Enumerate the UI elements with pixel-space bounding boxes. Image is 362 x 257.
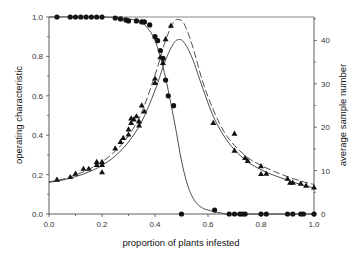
x-axis-title: proportion of plants infested — [122, 237, 239, 248]
right-y-tick-label: 20 — [321, 123, 330, 132]
right-y-axis-title: average sample number — [337, 64, 348, 166]
right-y-tick-label: 0 — [321, 210, 326, 219]
right-y-tick-label: 30 — [321, 80, 330, 89]
series-layer — [49, 14, 317, 216]
x-tick-label: 0.2 — [96, 220, 108, 229]
chart: 0.00.20.40.60.81.00.00.20.40.60.81.00102… — [0, 0, 362, 257]
x-tick-label: 0.8 — [255, 220, 267, 229]
left-y-tick-label: 0.8 — [32, 52, 44, 61]
left-y-tick-label: 0.2 — [32, 171, 44, 180]
left-y-tick-label: 0.6 — [32, 92, 44, 101]
plot-frame — [49, 17, 314, 214]
left-y-tick-label: 0.4 — [32, 131, 44, 140]
x-tick-label: 0.4 — [149, 220, 161, 229]
oc-model-curve — [49, 17, 314, 214]
right-y-tick-label: 40 — [321, 36, 330, 45]
left-y-axis-title: operating characteristic — [13, 66, 24, 164]
x-tick-label: 1.0 — [308, 220, 320, 229]
ticks: 0.00.20.40.60.81.00.00.20.40.60.81.00102… — [32, 13, 331, 229]
x-tick-label: 0.0 — [43, 220, 55, 229]
left-y-tick-label: 1.0 — [32, 13, 44, 22]
right-y-tick-label: 10 — [321, 167, 330, 176]
left-y-tick-label: 0.0 — [32, 210, 44, 219]
asn-observed-points — [54, 22, 317, 189]
x-tick-label: 0.6 — [202, 220, 214, 229]
